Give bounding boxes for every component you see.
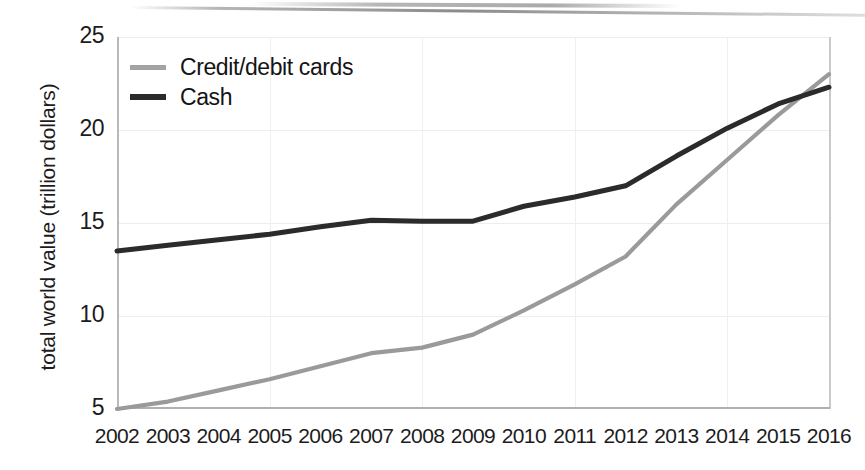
legend-item-label: Credit/debit cards xyxy=(180,54,353,81)
legend-item-credit-debit-cards: Credit/debit cards xyxy=(130,52,353,82)
scan-artifact-streak-secondary xyxy=(250,2,680,8)
legend-item-label: Cash xyxy=(180,84,232,111)
chart-figure: total world value (trillion dollars) 510… xyxy=(0,0,865,470)
y-tick-label: 5 xyxy=(58,394,104,421)
scan-artifact-streak xyxy=(130,6,865,17)
y-tick-label: 10 xyxy=(58,301,104,328)
y-axis-title: total world value (trillion dollars) xyxy=(36,17,60,437)
chart-legend: Credit/debit cards Cash xyxy=(130,52,353,112)
y-tick-label: 15 xyxy=(58,208,104,235)
line-swatch-dark-icon xyxy=(130,94,166,100)
y-tick-label: 20 xyxy=(58,115,104,142)
x-tick-label: 2016 xyxy=(799,424,859,448)
line-swatch-gray-icon xyxy=(130,65,166,70)
y-tick-label: 25 xyxy=(58,22,104,49)
legend-item-cash: Cash xyxy=(130,82,353,112)
